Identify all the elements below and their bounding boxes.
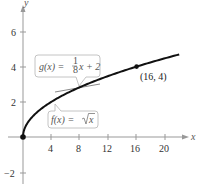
point-label: (16, 4) (140, 71, 167, 83)
f-callout-radicand: x (88, 114, 94, 125)
f-callout-lhs: f(x) = (51, 114, 74, 126)
x-axis-label: x (190, 131, 196, 142)
x-tick-label: 8 (76, 143, 81, 154)
x-tick-label: 4 (48, 143, 53, 154)
callout-g: g(x) = 1 8 x + 2 (35, 55, 100, 86)
g-callout-rhs: x + 2 (78, 61, 100, 72)
origin-point (20, 134, 26, 140)
x-axis-arrow-icon (182, 135, 189, 140)
x-tick-label: 12 (102, 143, 112, 154)
y-axis-label: y (23, 0, 29, 8)
g-callout-denominator: 8 (73, 64, 78, 75)
callout-f: f(x) = x (48, 104, 98, 128)
y-tick-label: 2 (11, 97, 16, 108)
y-tick-label: −2 (4, 168, 15, 179)
y-tick-label: 4 (11, 62, 16, 73)
x-tick-label: 20 (159, 143, 169, 154)
axes (8, 10, 184, 184)
g-callout-lhs: g(x) = (39, 61, 64, 73)
function-graph: x y 4 8 12 16 20 6 4 2 −2 (16, 4) g(x) =… (0, 0, 200, 191)
y-tick-label: 6 (11, 27, 16, 38)
x-tick-label: 16 (130, 143, 140, 154)
point-16-4 (134, 64, 139, 69)
